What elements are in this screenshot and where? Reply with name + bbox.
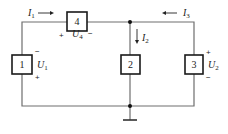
top-junction-dot (128, 20, 132, 24)
element-4: 4 + U4 − (59, 12, 93, 41)
current-i2: I2 (135, 29, 149, 45)
element-1-label: 1 (20, 59, 25, 70)
current-i1: I1 (27, 7, 54, 20)
i2-label: I2 (141, 32, 149, 45)
arrow-right-icon (50, 11, 54, 15)
current-i3: I3 (162, 7, 190, 20)
element-2-label: 2 (128, 59, 133, 70)
outer-loop-wire (22, 22, 194, 106)
u4-plus-sign: + (59, 31, 64, 40)
u2-minus-sign: − (206, 73, 211, 82)
element-3-label: 3 (192, 59, 197, 70)
i3-label: I3 (182, 7, 190, 20)
wires (22, 22, 194, 120)
u1-label: U1 (37, 59, 48, 72)
u2-label: U2 (208, 59, 219, 72)
bottom-junction-dot (128, 104, 132, 108)
i1-label: I1 (27, 7, 35, 20)
arrow-left-icon (162, 11, 166, 15)
element-4-label: 4 (75, 16, 80, 27)
u4-minus-sign: − (88, 29, 93, 38)
u2-plus-sign: + (206, 48, 211, 57)
element-1: 1 − + U1 (12, 47, 48, 82)
element-3: 3 + U2 − (185, 48, 219, 82)
arrow-down-icon (135, 40, 139, 44)
element-2: 2 (121, 55, 140, 74)
u1-minus-sign: − (35, 47, 40, 56)
circuit-diagram: 1 − + U1 4 + U4 − 2 3 + U2 − I1 I2 (0, 0, 228, 134)
u1-plus-sign: + (35, 73, 40, 82)
